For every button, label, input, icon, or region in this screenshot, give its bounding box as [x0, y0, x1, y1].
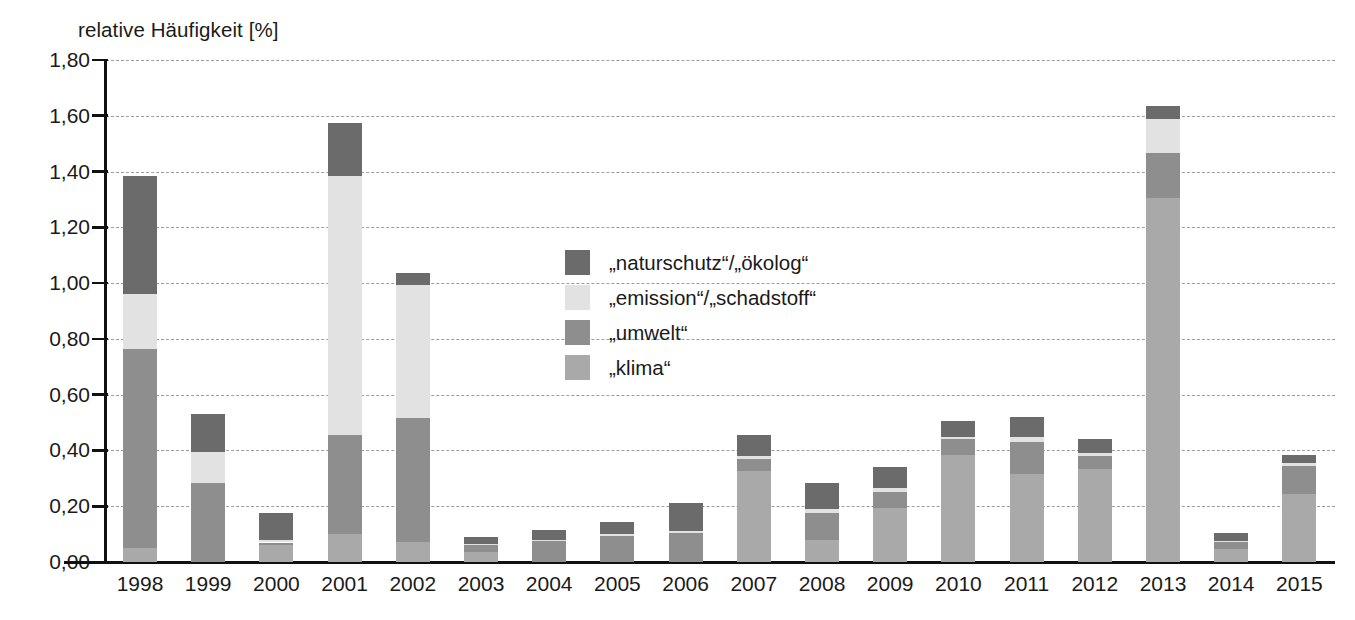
legend-item: „umwelt“ [565, 315, 965, 350]
bar-segment-emission [123, 294, 157, 348]
bar-segment-naturschutz [1282, 455, 1316, 463]
bar-segment-naturschutz [669, 503, 703, 531]
bar-group [1010, 60, 1044, 562]
bar-segment-emission [396, 285, 430, 419]
bar-segment-emission [805, 509, 839, 513]
stacked-bar-chart: relative Häufigkeit [%] 1,801,601,401,20… [0, 0, 1355, 620]
bar-segment-umwelt [1214, 542, 1248, 549]
bar-segment-umwelt [873, 492, 907, 507]
bar-group [259, 60, 293, 562]
bar-segment-umwelt [123, 349, 157, 548]
bar-segment-emission [1214, 541, 1248, 542]
bar-segment-umwelt [600, 536, 634, 562]
bar-segment-klima [259, 545, 293, 562]
y-axis-tick-labels: 1,801,601,401,201,000,800,600,400,200,00 [12, 0, 90, 620]
bar-segment-emission [941, 437, 975, 440]
bar-segment-umwelt [1010, 442, 1044, 474]
bar-segment-naturschutz [191, 414, 225, 452]
bar-segment-umwelt [669, 533, 703, 562]
y-axis-title: relative Häufigkeit [%] [78, 18, 279, 42]
legend-item-label: „umwelt“ [609, 322, 688, 344]
bar-segment-klima [1078, 469, 1112, 562]
bar-group [123, 60, 157, 562]
legend-swatch-icon [565, 320, 590, 345]
y-axis-tick-label: 1,00 [18, 272, 90, 293]
bar-segment-emission [328, 176, 362, 435]
bar-segment-klima [328, 534, 362, 562]
bar-segment-klima [464, 552, 498, 562]
bar-group [191, 60, 225, 562]
bar-segment-emission [191, 452, 225, 483]
bar-segment-klima [1010, 474, 1044, 562]
bar-segment-naturschutz [1214, 533, 1248, 541]
bar-segment-emission [873, 488, 907, 492]
bar-segment-naturschutz [396, 273, 430, 284]
legend-item-label: „klima“ [609, 357, 671, 379]
bar-group [1282, 60, 1316, 562]
y-axis-tick-label: 0,80 [18, 328, 90, 349]
bar-segment-emission [1010, 437, 1044, 443]
chart-legend: „naturschutz“/„ökolog“„emission“/„schads… [565, 245, 965, 385]
bar-segment-klima [941, 455, 975, 562]
bar-segment-naturschutz [259, 513, 293, 539]
bar-segment-emission [1282, 463, 1316, 466]
legend-swatch-icon [565, 355, 590, 380]
bar-group [1146, 60, 1180, 562]
bar-segment-klima [1146, 198, 1180, 562]
bar-segment-klima [123, 548, 157, 562]
bar-segment-naturschutz [1010, 417, 1044, 437]
bar-segment-naturschutz [737, 435, 771, 456]
bar-group [1078, 60, 1112, 562]
bar-segment-umwelt [328, 435, 362, 534]
bar-segment-umwelt [805, 513, 839, 539]
bar-segment-umwelt [532, 541, 566, 562]
bar-segment-naturschutz [941, 421, 975, 436]
y-axis-tick-label: 1,40 [18, 161, 90, 182]
bar-segment-emission [532, 540, 566, 541]
bar-segment-emission [669, 531, 703, 532]
bar-segment-umwelt [1282, 466, 1316, 494]
bar-segment-umwelt [464, 545, 498, 552]
bar-segment-umwelt [259, 543, 293, 546]
bar-segment-naturschutz [873, 467, 907, 488]
y-axis-tick-label: 0,40 [18, 439, 90, 460]
x-axis-tick-label: 2015 [1259, 572, 1339, 596]
bar-segment-emission [737, 456, 771, 459]
bar-segment-naturschutz [328, 123, 362, 176]
bar-segment-klima [1282, 494, 1316, 562]
legend-item: „naturschutz“/„ökolog“ [565, 245, 965, 280]
bar-group [532, 60, 566, 562]
bar-segment-naturschutz [123, 176, 157, 295]
bar-segment-umwelt [1146, 153, 1180, 198]
bar-segment-emission [464, 544, 498, 545]
bar-segment-umwelt [737, 459, 771, 472]
bar-segment-klima [396, 542, 430, 562]
bar-segment-naturschutz [1146, 106, 1180, 119]
y-axis-tick-label: 1,20 [18, 216, 90, 237]
bar-segment-umwelt [1078, 456, 1112, 469]
y-axis-tick-label: 1,80 [18, 49, 90, 70]
bar-segment-klima [737, 471, 771, 562]
y-axis-tick-label: 1,60 [18, 105, 90, 126]
bar-group [464, 60, 498, 562]
legend-swatch-icon [565, 250, 590, 275]
bar-segment-klima [1214, 549, 1248, 562]
legend-item: „klima“ [565, 350, 965, 385]
legend-item: „emission“/„schadstoff“ [565, 280, 965, 315]
legend-item-label: „emission“/„schadstoff“ [609, 287, 816, 309]
bar-segment-naturschutz [464, 537, 498, 544]
x-axis-tick-labels: 1998199920002001200220032004200520062007… [0, 572, 1355, 612]
y-axis-tick-label: 0,60 [18, 384, 90, 405]
bar-group [396, 60, 430, 562]
bar-segment-umwelt [396, 418, 430, 542]
bar-segment-naturschutz [805, 483, 839, 509]
bar-segment-klima [873, 508, 907, 562]
bar-segment-klima [805, 540, 839, 562]
bar-group [1214, 60, 1248, 562]
bar-segment-naturschutz [532, 530, 566, 540]
bar-group [328, 60, 362, 562]
bar-segment-umwelt [191, 483, 225, 562]
bar-segment-emission [1078, 453, 1112, 456]
legend-item-label: „naturschutz“/„ökolog“ [609, 252, 808, 274]
bar-segment-umwelt [941, 439, 975, 454]
